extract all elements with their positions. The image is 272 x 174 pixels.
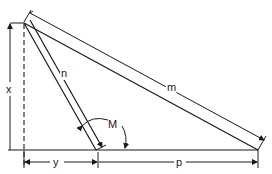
bar-n-line-2 [30, 20, 102, 147]
angle-m-arc-right [122, 126, 126, 148]
hypotenuse-line-2 [24, 28, 250, 150]
y-label: y [53, 156, 59, 168]
m-label: m [167, 81, 176, 93]
n-label: n [61, 67, 67, 79]
angle-m-label: M [108, 118, 117, 130]
m-end-tick [258, 136, 266, 150]
p-label: p [176, 156, 182, 168]
x-label: x [6, 83, 12, 95]
geometry-diagram: x n m M y p [0, 0, 272, 174]
hypotenuse-line [24, 23, 258, 150]
